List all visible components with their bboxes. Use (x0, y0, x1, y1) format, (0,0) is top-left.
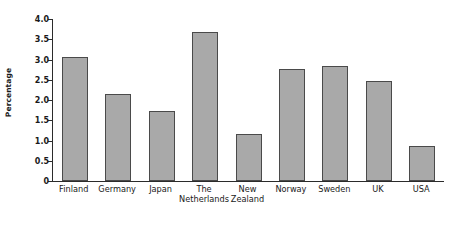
bar-series (53, 14, 444, 181)
x-axis-line (52, 181, 444, 182)
x-tick-label-line1: Finland (59, 184, 88, 194)
y-tick-label: 1.5 (35, 116, 49, 125)
y-tick-label: 2.5 (35, 75, 49, 84)
y-tick-label: 3.5 (35, 35, 49, 44)
x-tick-label: USA (394, 184, 449, 194)
x-tick-label-line2: Zealand (220, 194, 275, 204)
y-tick-label: 2.0 (35, 96, 49, 105)
x-tick-label-line1: Norway (275, 184, 306, 194)
y-tick-label: 4.0 (35, 15, 49, 24)
bar (149, 111, 175, 181)
bar (192, 32, 218, 181)
bar (366, 81, 392, 181)
x-tick-label-line1: USA (413, 184, 430, 194)
x-axis-tick-labels: FinlandGermanyJapanTheNetherlandsNewZeal… (52, 184, 444, 214)
x-tick-label-line1: The (196, 184, 211, 194)
bar (279, 69, 305, 181)
figure-caption (22, 219, 442, 230)
x-tick-label-line1: New (239, 184, 257, 194)
y-tick-label: 1.0 (35, 136, 49, 145)
x-tick-label-line1: Sweden (318, 184, 350, 194)
x-tick-label-line1: UK (372, 184, 383, 194)
bar (409, 146, 435, 181)
bar-chart-figure: Percentage 00.51.01.52.02.53.03.54.0 Fin… (0, 0, 452, 230)
bar (105, 94, 131, 181)
bar (236, 134, 262, 181)
x-tick-label-line1: Germany (98, 184, 136, 194)
bar (62, 57, 88, 181)
x-tick-label-line1: Japan (149, 184, 172, 194)
plot-area: 00.51.01.52.02.53.03.54.0 (52, 14, 444, 181)
y-tick-label: 0.5 (35, 156, 49, 165)
y-axis-title: Percentage (0, 0, 18, 185)
bar (322, 66, 348, 181)
y-tick-label: 3.0 (35, 55, 49, 64)
y-axis-title-text: Percentage (5, 68, 14, 117)
